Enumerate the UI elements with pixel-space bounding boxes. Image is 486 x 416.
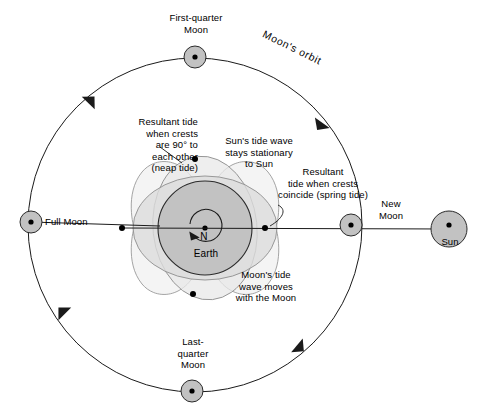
last-quarter-moon-label: Last- quarter Moon [145,336,241,371]
sun-tide-wave-annotation: Sun's tide wave stays stationary to Sun [199,135,319,170]
new-moon-label: New Moon [366,198,416,221]
tide-crest-dot-right [262,225,268,231]
full-moon-body [20,211,42,233]
orbit-direction-arrow-lower-left [52,301,71,320]
new-moon-body [340,214,362,236]
tide-crest-dot-left [119,225,125,231]
first-quarter-moon-label: First-quarter Moon [144,12,248,35]
earth-north-pole-label: N [193,231,215,243]
orbit-direction-arrow-upper-right [310,118,330,136]
last-quarter-moon-body [181,380,203,402]
tide-crest-dot-bottom [190,291,196,297]
neap-tide-annotation: Resultant tide when crests are 90° to ea… [88,116,198,174]
earth-label: Earth [180,248,232,260]
full-moon-label: Full Moon [45,216,115,228]
first-quarter-moon-body [184,46,206,68]
moon-tide-wave-annotation: Moon's tide wave moves with the Moon [216,269,316,304]
spring-tide-annotation: Resultant tide when crests coincide (spr… [262,166,384,201]
tidal-diagram-canvas: First-quarter Moon Full Moon Last- quart… [0,0,486,416]
sun-label: Sun [434,236,466,248]
